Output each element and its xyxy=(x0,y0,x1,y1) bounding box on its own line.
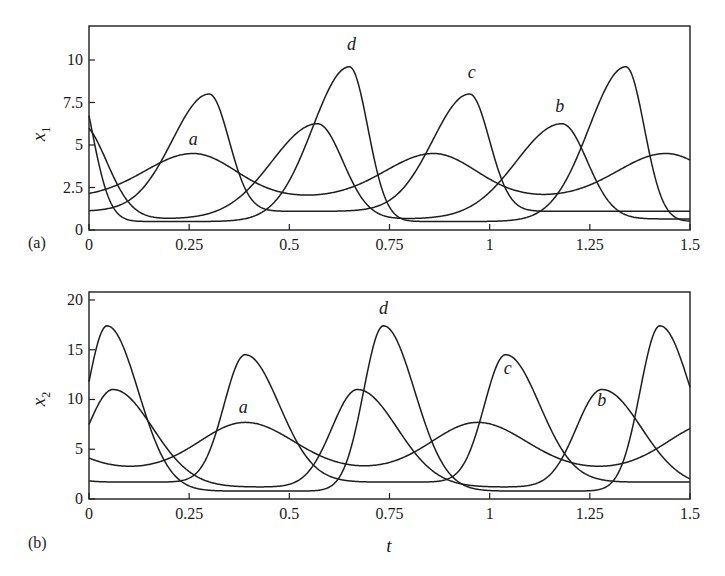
panel-a-label: (a) xyxy=(28,234,46,252)
x-tick-label: 1 xyxy=(486,236,494,253)
curve-label-b: b xyxy=(597,390,606,410)
y-tick-label: 0 xyxy=(75,221,83,238)
panel-b-label: (b) xyxy=(28,534,47,552)
curve-label-d: d xyxy=(379,298,389,318)
panel-a-chart: 00.250.50.7511.251.502.557.510 adcb x1 (… xyxy=(28,26,700,253)
x-tick-label: 0.75 xyxy=(376,505,404,522)
y-tick-label: 10 xyxy=(67,390,83,407)
y-tick-label: 5 xyxy=(75,440,83,457)
panel-a-ticks xyxy=(89,60,690,230)
y-tick-label: 15 xyxy=(67,341,83,358)
curve-a xyxy=(89,422,690,466)
panel-a-y-axis-label: x1 xyxy=(28,127,53,142)
curve-label-a: a xyxy=(189,129,198,149)
panel-b-chart: 00.250.50.7511.251.505101520 adcb x2 t (… xyxy=(28,291,700,556)
panel-b-y-axis-label: x2 xyxy=(28,392,53,407)
y-tick-label: 5 xyxy=(75,136,83,153)
curve-label-c: c xyxy=(468,62,476,82)
panel-a-curves xyxy=(89,67,690,222)
curve-label-c: c xyxy=(504,358,512,378)
x-tick-label: 0.5 xyxy=(279,505,299,522)
panel-a-curve-labels: adcb xyxy=(189,34,565,149)
panel-b-x-axis-label: t xyxy=(386,535,392,556)
curve-b xyxy=(89,124,690,219)
x-tick-label: 1.25 xyxy=(576,505,604,522)
y-tick-label: 0 xyxy=(75,490,83,507)
x-tick-label: 0.25 xyxy=(175,505,203,522)
curve-c xyxy=(89,94,690,211)
x-tick-label: 0.25 xyxy=(175,236,203,253)
x-tick-label: 1 xyxy=(486,505,494,522)
curve-label-b: b xyxy=(555,96,564,116)
y-tick-label: 2.5 xyxy=(63,179,83,196)
figure: 00.250.50.7511.251.502.557.510 adcb x1 (… xyxy=(0,0,725,576)
panel-b-curve-labels: adcb xyxy=(239,298,607,418)
x-tick-label: 0 xyxy=(85,236,93,253)
x-tick-label: 0 xyxy=(85,505,93,522)
x-tick-label: 1.5 xyxy=(680,505,700,522)
y-tick-label: 20 xyxy=(67,291,83,308)
curve-label-d: d xyxy=(347,34,357,54)
curve-d xyxy=(89,67,690,222)
x-tick-label: 1.5 xyxy=(680,236,700,253)
x-tick-label: 1.25 xyxy=(576,236,604,253)
y-tick-label: 7.5 xyxy=(63,94,83,111)
curve-label-a: a xyxy=(239,397,248,417)
y-tick-label: 10 xyxy=(67,51,83,68)
x-tick-label: 0.5 xyxy=(279,236,299,253)
x-tick-label: 0.75 xyxy=(376,236,404,253)
panel-a-tick-labels: 00.250.50.7511.251.502.557.510 xyxy=(63,51,700,253)
